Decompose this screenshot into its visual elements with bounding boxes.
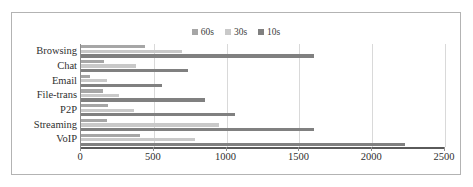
x-tick-label-1000: 1000 (215, 151, 236, 162)
bar-group-file-trans (81, 88, 445, 103)
y-axis-label-streaming: Streaming (12, 118, 80, 133)
bar-email-60s (81, 75, 90, 78)
x-axis-line (80, 147, 444, 149)
bar-group-voip (81, 132, 445, 147)
bar-browsing-10s (81, 54, 314, 57)
x-tick-0 (80, 147, 81, 151)
y-axis-labels: Browsing Chat Email File-trans P2P Strea… (12, 44, 80, 147)
legend-swatch-60s (192, 29, 198, 35)
bar-email-10s (81, 84, 162, 87)
legend-label-10s: 10s (267, 27, 280, 37)
y-axis-label-chat: Chat (12, 59, 80, 74)
x-tick-label-2000: 2000 (361, 151, 382, 162)
x-tick-label-0: 0 (77, 151, 82, 162)
legend-item-10s: 10s (258, 27, 280, 37)
bar-p2p-30s (81, 109, 134, 112)
y-axis-label-voip: VoIP (12, 132, 80, 147)
y-axis-label-file-trans: File-trans (12, 88, 80, 103)
bar-group-browsing (81, 44, 445, 59)
x-tick-500 (153, 147, 154, 151)
x-tick-1000 (226, 147, 227, 151)
x-axis-labels: 05001000150020002500 (80, 151, 444, 171)
bar-group-p2p (81, 103, 445, 118)
plot-wrapper: Browsing Chat Email File-trans P2P Strea… (12, 44, 462, 176)
bar-groups (81, 44, 445, 147)
y-axis-label-browsing: Browsing (12, 44, 80, 59)
bar-browsing-60s (81, 45, 145, 48)
bar-chat-60s (81, 60, 104, 63)
bar-email-30s (81, 79, 107, 82)
x-tick-label-2500: 2500 (434, 151, 455, 162)
x-tick-label-1500: 1500 (288, 151, 309, 162)
legend-item-60s: 60s (192, 27, 214, 37)
bar-group-chat (81, 59, 445, 74)
y-axis-label-email: Email (12, 73, 80, 88)
gridline-2500 (445, 44, 446, 147)
bar-streaming-30s (81, 123, 219, 126)
bar-file-trans-30s (81, 94, 119, 97)
bar-p2p-60s (81, 104, 108, 107)
bar-voip-10s (81, 143, 405, 146)
chart-legend: 60s 30s 10s (12, 27, 460, 37)
bar-p2p-10s (81, 113, 235, 116)
legend-swatch-30s (225, 29, 231, 35)
legend-item-30s: 30s (225, 27, 247, 37)
bar-voip-60s (81, 134, 140, 137)
bar-group-email (81, 73, 445, 88)
legend-label-30s: 30s (234, 27, 247, 37)
legend-swatch-10s (258, 29, 264, 35)
y-axis-label-p2p: P2P (12, 103, 80, 118)
bar-chat-10s (81, 69, 188, 72)
bar-file-trans-10s (81, 98, 205, 101)
x-tick-label-500: 500 (145, 151, 161, 162)
legend-label-60s: 60s (201, 27, 214, 37)
bar-file-trans-60s (81, 89, 103, 92)
x-tick-2000 (371, 147, 372, 151)
bar-voip-30s (81, 138, 195, 141)
bar-chat-30s (81, 64, 136, 67)
plot-area (80, 44, 445, 147)
x-tick-2500 (444, 147, 445, 151)
bar-browsing-30s (81, 50, 182, 53)
x-tick-1500 (298, 147, 299, 151)
bar-streaming-10s (81, 128, 314, 131)
bar-streaming-60s (81, 119, 107, 122)
chart-frame: 60s 30s 10s Browsing Chat Email File-tra… (11, 12, 461, 175)
bar-group-streaming (81, 118, 445, 133)
